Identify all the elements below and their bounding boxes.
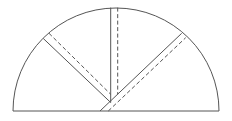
right-diagonal-solid-line [100,33,182,111]
right-diagonal-dashed-line [108,38,185,111]
left-diagonal-solid-line [43,39,110,103]
dashed-fold-lines [49,8,186,111]
semicircle-fold-diagram [0,0,232,121]
left-diagonal-dashed-line [49,33,111,94]
solid-fold-lines [43,8,181,111]
